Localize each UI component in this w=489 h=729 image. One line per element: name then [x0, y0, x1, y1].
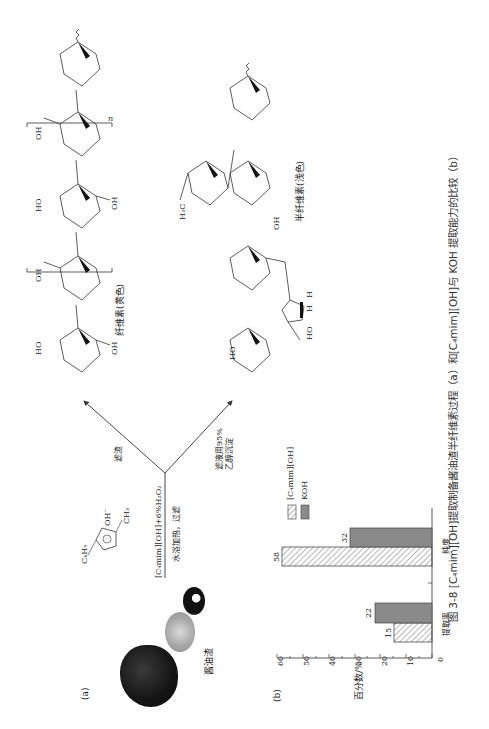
legend-label-ionic: [C₄mim][OH]: [286, 447, 295, 500]
tick-label: 20: [380, 656, 389, 666]
legend-swatch-ionic: [288, 505, 296, 519]
bar-ionic-purity: [282, 547, 432, 566]
tick-label: 0: [436, 657, 445, 662]
value-label: 22: [364, 608, 373, 618]
legend-swatch-koh: [301, 505, 309, 519]
value-label: 32: [340, 533, 349, 543]
bar-ionic-extraction-rate: [394, 623, 432, 642]
tick-label: 40: [328, 656, 337, 666]
value-label: 58: [272, 552, 281, 562]
bar-koh-purity: [350, 528, 432, 547]
tick-label: 60: [276, 656, 285, 666]
tick-label: 10: [406, 656, 415, 666]
legend-label-koh: KOH: [300, 481, 309, 500]
value-label: 15: [384, 628, 393, 638]
value-axis-title: 百分数/%: [352, 661, 365, 700]
tick-label: 50: [302, 656, 311, 666]
bar-chart-axes: [0, 0, 489, 729]
figure-caption: 图 3-8 [C₄mim][OH]提取制备酱油渣半纤维素过程（a）和[C₄mim…: [445, 151, 460, 622]
bar-koh-extraction-rate: [375, 603, 432, 623]
